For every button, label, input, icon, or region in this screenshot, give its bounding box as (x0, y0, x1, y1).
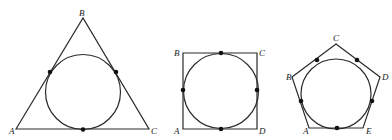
tangent-point (219, 127, 224, 132)
tangent-point (315, 58, 320, 63)
vertex-label: A (8, 126, 15, 136)
triangle-outline (16, 18, 149, 129)
triangle-figure: ABC (8, 8, 158, 136)
tangent-point (370, 99, 375, 104)
inscribed-circle (301, 59, 371, 129)
tangent-point (48, 70, 53, 75)
vertex-label: B (286, 72, 292, 82)
square-figure: BCAD (173, 48, 266, 136)
tangent-point (114, 70, 119, 75)
tangent-point (255, 88, 260, 93)
tangent-point (299, 99, 304, 104)
vertex-label: C (333, 33, 340, 43)
vertex-label: B (79, 8, 85, 18)
inscribed-circles-diagram: ABC BCAD CBDAE (0, 0, 392, 140)
tangent-point (335, 126, 340, 131)
pentagon-figure: CBDAE (286, 33, 389, 136)
tangent-point (219, 51, 224, 56)
inscribed-circle (46, 55, 121, 130)
pentagon-outline (292, 44, 380, 128)
tangent-point (81, 127, 86, 132)
vertex-label: B (174, 48, 180, 58)
inscribed-circle (184, 54, 259, 129)
vertex-label: A (173, 126, 180, 136)
vertex-label: C (259, 48, 266, 58)
vertex-label: C (151, 126, 158, 136)
vertex-label: E (365, 126, 372, 136)
vertex-label: D (258, 126, 266, 136)
vertex-label: D (381, 72, 389, 82)
tangent-point (355, 58, 360, 63)
vertex-label: A (302, 126, 309, 136)
tangent-point (181, 88, 186, 93)
